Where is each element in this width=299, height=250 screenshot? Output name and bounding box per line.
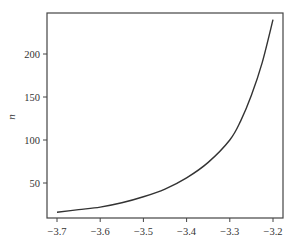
x-axis-ticks: −3.7−3.6−3.5−3.4−3.3−3.2 [47, 218, 282, 237]
y-tick-label: 150 [24, 92, 40, 103]
x-tick-label: −3.5 [134, 226, 153, 237]
plot-frame [47, 13, 283, 218]
y-axis-ticks: 50100150200 [24, 49, 47, 189]
x-tick-label: −3.6 [91, 226, 110, 237]
y-tick-label: 50 [30, 178, 41, 189]
x-tick-label: −3.2 [263, 226, 282, 237]
y-axis-label: n [5, 114, 17, 120]
data-line [57, 20, 273, 213]
y-tick-label: 200 [24, 49, 40, 60]
x-tick-label: −3.3 [220, 226, 239, 237]
x-tick-label: −3.4 [177, 226, 197, 237]
x-tick-label: −3.7 [47, 226, 66, 237]
y-tick-label: 100 [24, 135, 40, 146]
line-chart: −3.7−3.6−3.5−3.4−3.3−3.2 50100150200 n [0, 0, 299, 250]
